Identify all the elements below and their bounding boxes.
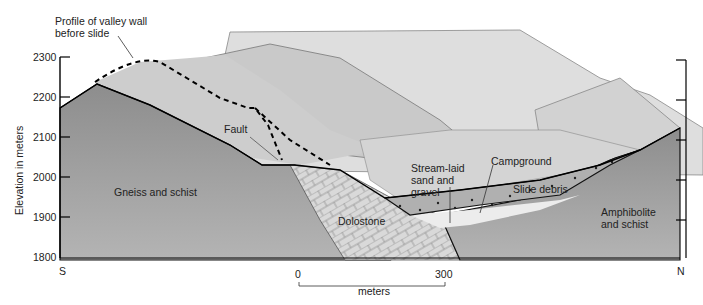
y-axis-label: Elevation in meters: [13, 126, 25, 215]
scale-end: 300: [435, 268, 453, 280]
direction-south: S: [59, 265, 66, 277]
label-fault: Fault: [224, 123, 247, 135]
tick-2000: 2000: [33, 171, 57, 183]
label-slide-debris: Slide debris: [513, 183, 568, 195]
label-stream-3: gravel: [411, 186, 440, 198]
tick-1900: 1900: [33, 211, 57, 223]
label-amphibolite-2: and schist: [601, 218, 648, 230]
label-stream-1: Stream-laid: [411, 162, 465, 174]
label-profile-1: Profile of valley wall: [55, 15, 147, 27]
tick-1800: 1800: [33, 251, 57, 263]
label-campground: Campground: [491, 155, 552, 167]
tick-2300: 2300: [33, 51, 57, 63]
label-amphibolite-1: Amphibolite: [601, 206, 656, 218]
tick-2200: 2200: [33, 91, 57, 103]
direction-north: N: [677, 265, 685, 277]
scale-start: 0: [295, 268, 301, 280]
label-dolostone: Dolostone: [338, 215, 385, 227]
label-profile-2: before slide: [55, 27, 109, 39]
tick-2100: 2100: [33, 131, 57, 143]
label-stream-2: sand and: [411, 174, 454, 186]
label-gneiss: Gneiss and schist: [114, 186, 197, 198]
profile-leader: [118, 36, 133, 58]
cross-section-diagram: 2300 2200 2100 2000 1900 1800 Elevation …: [0, 0, 703, 305]
scale-unit: meters: [358, 285, 390, 297]
